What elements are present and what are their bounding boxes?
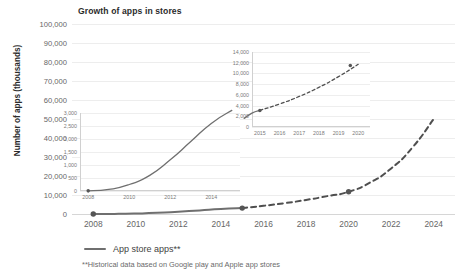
data-point-marker xyxy=(346,189,351,194)
x-tick-label: 2022 xyxy=(382,219,401,229)
y-tick-label: 90,000 xyxy=(44,39,67,48)
y-tick-label: 4,000 xyxy=(236,103,249,109)
series-line-1 xyxy=(260,64,358,110)
y-tick-label: 0 xyxy=(74,188,77,194)
data-point-marker xyxy=(91,211,96,216)
y-tick-label: 500 xyxy=(68,175,77,181)
y-tick-label: 8,000 xyxy=(236,81,249,87)
data-point-marker xyxy=(258,109,262,113)
y-tick-label: 20,000 xyxy=(44,172,67,181)
y-tick-label: 80,000 xyxy=(44,58,67,67)
x-tick-label: 2020 xyxy=(352,130,364,136)
footnote-text: **Historical data based on Google play a… xyxy=(82,260,280,269)
x-tick-label: 2020 xyxy=(339,219,358,229)
legend: App store apps** xyxy=(84,244,181,254)
y-tick-label: 70,000 xyxy=(44,77,67,86)
x-tick-label: 2014 xyxy=(212,219,231,229)
y-tick-label: 10,000 xyxy=(44,191,67,200)
data-point-marker xyxy=(349,64,353,68)
y-tick-label: 0 xyxy=(246,124,249,130)
y-tick-label: 3,000 xyxy=(64,110,77,116)
x-tick-label: 2016 xyxy=(274,130,286,136)
x-tick-label: 2010 xyxy=(123,194,135,200)
y-tick-label: 0 xyxy=(63,210,67,219)
x-tick-label: 2024 xyxy=(424,219,443,229)
x-axis-line xyxy=(252,127,370,128)
x-tick-label: 2008 xyxy=(84,219,103,229)
inset2-series-svg xyxy=(252,52,370,127)
inset-chart-2: 02,0004,0006,0008,00010,00012,00014,000 … xyxy=(252,52,370,127)
x-tick-label: 2016 xyxy=(254,219,273,229)
y-tick-label: 60,000 xyxy=(44,96,67,105)
y-tick-label: 2,500 xyxy=(64,123,77,129)
x-axis-line xyxy=(80,191,240,192)
y-tick-label: 1,500 xyxy=(64,149,77,155)
y-tick-label: 2,000 xyxy=(64,136,77,142)
x-tick-label: 2012 xyxy=(169,219,188,229)
inset1-series-svg xyxy=(80,113,240,191)
data-point-marker xyxy=(86,189,90,193)
x-tick-label: 2008 xyxy=(82,194,94,200)
series-line-0 xyxy=(88,110,232,190)
legend-item-label: App store apps** xyxy=(113,244,181,254)
series-line-0 xyxy=(93,208,242,214)
x-tick-label: 2018 xyxy=(313,130,325,136)
x-tick-label: 2015 xyxy=(254,130,266,136)
inset-chart-1: 05001,0001,5002,0002,5003,000 2008201020… xyxy=(80,113,240,191)
x-tick-label: 2012 xyxy=(164,194,176,200)
x-tick-label: 2017 xyxy=(293,130,305,136)
y-tick-label: 100,000 xyxy=(40,20,67,29)
page-title: Growth of apps in stores xyxy=(78,6,182,16)
x-tick-label: 2014 xyxy=(205,194,217,200)
chart-container: Growth of apps in stores Number of apps … xyxy=(0,0,467,270)
data-point-marker xyxy=(240,205,245,210)
y-axis-title: Number of apps (thousands) xyxy=(13,21,22,181)
y-tick-label: 6,000 xyxy=(236,92,249,98)
y-tick-label: 1,000 xyxy=(64,162,77,168)
y-tick-label: 14,000 xyxy=(233,49,249,55)
y-tick-label: 12,000 xyxy=(233,60,249,66)
y-tick-label: 10,000 xyxy=(233,70,249,76)
legend-line-swatch xyxy=(84,248,106,251)
x-tick-label: 2018 xyxy=(297,219,316,229)
x-tick-label: 2010 xyxy=(127,219,146,229)
x-tick-label: 2019 xyxy=(333,130,345,136)
